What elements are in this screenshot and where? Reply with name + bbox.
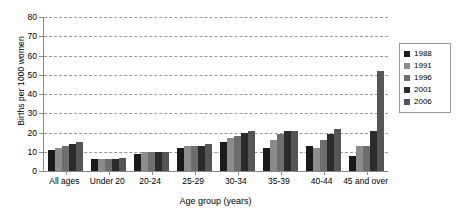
bar	[191, 146, 198, 171]
bar-group	[173, 17, 216, 171]
bar	[234, 136, 241, 171]
bar	[263, 148, 270, 171]
bar	[177, 148, 184, 171]
x-axis-tick-mark	[66, 171, 67, 175]
bar	[76, 142, 83, 171]
bar	[363, 146, 370, 171]
y-axis-tick-mark	[39, 171, 43, 172]
x-axis-tick-mark	[367, 171, 368, 175]
y-axis-tick-label: 40	[28, 89, 37, 99]
bar	[313, 148, 320, 171]
legend-item: 1996	[404, 72, 447, 84]
y-axis-tick-mark	[39, 152, 43, 153]
y-axis-tick-label: 70	[28, 31, 37, 41]
x-axis-labels: All agesUnder 2020-2425-2930-3435-3940-4…	[43, 176, 388, 186]
bar	[327, 134, 334, 171]
bar	[62, 146, 69, 171]
x-axis-tick-label: Under 20	[86, 176, 129, 186]
legend-swatch-icon	[404, 87, 410, 93]
y-axis-tick-mark	[39, 75, 43, 76]
bar	[349, 156, 356, 171]
y-axis-tick-label: 50	[28, 70, 37, 80]
bar	[334, 129, 341, 171]
bar	[320, 140, 327, 171]
y-axis-tick-label: 0	[32, 166, 37, 176]
legend-item-label: 1996	[414, 74, 432, 82]
x-axis-tick-mark	[195, 171, 196, 175]
y-axis-tick-label: 10	[28, 147, 37, 157]
bar	[184, 146, 191, 171]
x-axis-tick-label: 35-39	[257, 176, 300, 186]
bar-group	[259, 17, 302, 171]
bar	[91, 159, 98, 171]
bar	[148, 152, 155, 171]
plot-area	[43, 17, 388, 172]
y-axis-tick-mark	[39, 133, 43, 134]
bar	[112, 159, 119, 171]
legend-item-label: 1988	[414, 50, 432, 58]
legend-swatch-icon	[404, 51, 410, 57]
legend-swatch-icon	[404, 99, 410, 105]
legend-item: 2006	[404, 96, 447, 108]
bar	[370, 131, 377, 171]
y-axis-tick-mark	[39, 56, 43, 57]
bar	[241, 133, 248, 172]
x-axis-tick-label: 40-44	[300, 176, 343, 186]
bar-group	[130, 17, 173, 171]
y-axis-tick-label: 80	[28, 12, 37, 22]
legend: 19881991199620012006	[399, 43, 451, 113]
x-axis-tick-mark	[109, 171, 110, 175]
y-axis-tick-mark	[39, 94, 43, 95]
legend-item-label: 1991	[414, 62, 432, 70]
bar	[198, 146, 205, 171]
bar-chart: Births per 1000 women 01020304050607080 …	[0, 0, 463, 214]
bar	[356, 146, 363, 171]
legend-item: 1988	[404, 48, 447, 60]
legend-item-label: 2006	[414, 98, 432, 106]
bar	[105, 159, 112, 171]
bar	[377, 71, 384, 171]
bar	[55, 148, 62, 171]
x-axis-tick-mark	[238, 171, 239, 175]
legend-swatch-icon	[404, 63, 410, 69]
legend-swatch-icon	[404, 75, 410, 81]
bar-group	[87, 17, 130, 171]
x-axis-tick-label: 30-34	[215, 176, 258, 186]
y-axis-title: Births per 1000 women	[16, 6, 26, 156]
bar	[155, 152, 162, 171]
legend-item-label: 2001	[414, 86, 432, 94]
bar	[291, 131, 298, 171]
bar	[141, 152, 148, 171]
x-axis-tick-mark	[324, 171, 325, 175]
bar	[220, 142, 227, 171]
x-axis-tick-label: 45 and over	[343, 176, 388, 186]
x-axis-tick-label: 25-29	[172, 176, 215, 186]
x-axis-title: Age group (years)	[43, 196, 388, 206]
bar	[248, 131, 255, 171]
x-axis-tick-label: All ages	[43, 176, 86, 186]
bar	[134, 154, 141, 171]
x-axis-tick-mark	[152, 171, 153, 175]
bar	[270, 140, 277, 171]
bar	[277, 134, 284, 171]
bar	[69, 144, 76, 171]
bar-group	[216, 17, 259, 171]
y-axis-tick-mark	[39, 36, 43, 37]
y-axis-tick-mark	[39, 17, 43, 18]
bar	[98, 159, 105, 171]
x-axis-tick-mark	[281, 171, 282, 175]
y-axis-tick-mark	[39, 113, 43, 114]
bar-groups	[44, 17, 388, 171]
legend-item: 2001	[404, 84, 447, 96]
y-axis-tick-label: 20	[28, 128, 37, 138]
bar	[227, 138, 234, 171]
bar	[48, 150, 55, 171]
bar	[306, 146, 313, 171]
bar	[284, 131, 291, 171]
x-axis-tick-label: 20-24	[129, 176, 172, 186]
bar	[162, 152, 169, 171]
bar-group	[302, 17, 345, 171]
bar	[119, 158, 126, 171]
bar-group	[44, 17, 87, 171]
y-axis-tick-label: 60	[28, 51, 37, 61]
